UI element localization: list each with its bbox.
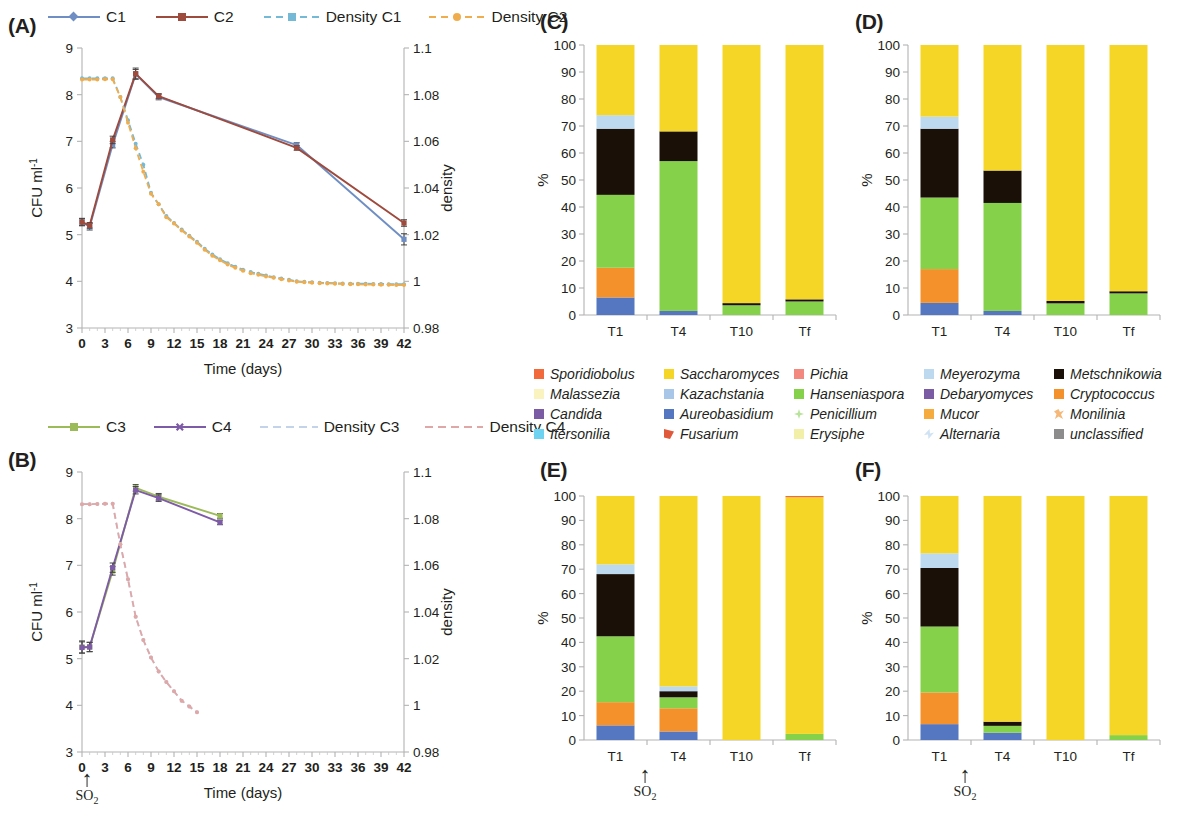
svg-text:5: 5 bbox=[65, 652, 73, 667]
svg-text:30: 30 bbox=[304, 336, 319, 351]
svg-text:6: 6 bbox=[124, 760, 132, 775]
taxon-name: Hanseniaspora bbox=[810, 386, 904, 402]
legend-item-taxon: Mucor bbox=[924, 404, 1048, 424]
taxon-color-swatch bbox=[794, 429, 804, 439]
taxon-color-swatch bbox=[794, 409, 804, 419]
legend-item-taxon: Kazachstania bbox=[664, 384, 788, 404]
taxon-name: Pichia bbox=[810, 366, 848, 382]
panel-d-chart: 0102030405060708090100T1T4T10Tf% bbox=[848, 30, 1174, 360]
svg-text:1.1: 1.1 bbox=[413, 465, 432, 480]
svg-text:T4: T4 bbox=[995, 749, 1011, 764]
svg-text:7: 7 bbox=[65, 558, 73, 573]
svg-text:1.08: 1.08 bbox=[413, 512, 439, 527]
svg-text:39: 39 bbox=[373, 336, 388, 351]
legend-key-density-c2 bbox=[429, 11, 485, 23]
svg-text:100: 100 bbox=[553, 38, 576, 53]
svg-text:Tf: Tf bbox=[1123, 749, 1135, 764]
svg-text:33: 33 bbox=[327, 760, 343, 775]
svg-text:Tf: Tf bbox=[799, 324, 811, 339]
panel-f-chart: 0102030405060708090100T1T4T10Tf% bbox=[848, 478, 1174, 788]
legend-item-taxon: Erysiphe bbox=[794, 424, 918, 444]
svg-text:24: 24 bbox=[258, 760, 274, 775]
legend-item-taxon: Meyerozyma bbox=[924, 364, 1048, 384]
svg-text:50: 50 bbox=[561, 611, 576, 626]
svg-text:30: 30 bbox=[885, 660, 900, 675]
taxon-name: Mucor bbox=[940, 406, 979, 422]
svg-text:90: 90 bbox=[885, 65, 900, 80]
legend-item-taxon: Debaryomyces bbox=[924, 384, 1048, 404]
svg-text:40: 40 bbox=[561, 200, 576, 215]
svg-text:1.06: 1.06 bbox=[413, 558, 439, 573]
svg-text:CFU ml-1: CFU ml-1 bbox=[28, 158, 45, 218]
legend-key-c4 bbox=[154, 421, 206, 433]
svg-text:30: 30 bbox=[304, 760, 319, 775]
svg-text:Tf: Tf bbox=[1123, 324, 1135, 339]
svg-text:0.98: 0.98 bbox=[413, 321, 439, 336]
legend-key-density-c4 bbox=[425, 421, 483, 433]
so2-arrow-icon: ↑ bbox=[940, 768, 990, 782]
svg-text:60: 60 bbox=[561, 587, 576, 602]
taxon-color-swatch bbox=[534, 429, 544, 439]
svg-text:100: 100 bbox=[553, 489, 576, 504]
svg-text:1: 1 bbox=[413, 274, 421, 289]
svg-text:9: 9 bbox=[147, 760, 155, 775]
legend-label-c3: C3 bbox=[106, 418, 126, 436]
svg-text:Tf: Tf bbox=[799, 749, 811, 764]
svg-text:30: 30 bbox=[561, 227, 576, 242]
so2-label: SO2 bbox=[940, 784, 990, 802]
svg-text:5: 5 bbox=[65, 228, 73, 243]
taxon-color-swatch bbox=[664, 389, 674, 399]
taxon-name: Fusarium bbox=[680, 426, 738, 442]
legend-item-taxon: unclassified bbox=[1054, 424, 1178, 444]
svg-text:90: 90 bbox=[885, 513, 900, 528]
svg-text:T10: T10 bbox=[730, 324, 753, 339]
legend-item-taxon: Itersonilia bbox=[534, 424, 658, 444]
legend-label-c1: C1 bbox=[106, 8, 126, 26]
legend-item-taxon: Pichia bbox=[794, 364, 918, 384]
svg-text:9: 9 bbox=[65, 465, 73, 480]
svg-text:1.06: 1.06 bbox=[413, 134, 439, 149]
svg-text:%: % bbox=[534, 173, 551, 186]
svg-text:42: 42 bbox=[396, 760, 411, 775]
panel-a-legend: C1 C2 Density C1 Density C2 bbox=[48, 8, 567, 26]
legend-item-taxon: Sporidiobolus bbox=[534, 364, 658, 384]
svg-text:70: 70 bbox=[885, 562, 900, 577]
svg-text:%: % bbox=[858, 173, 875, 186]
so2-label: SO2 bbox=[620, 784, 670, 802]
svg-text:T10: T10 bbox=[1054, 749, 1077, 764]
svg-text:3: 3 bbox=[65, 745, 73, 760]
svg-text:9: 9 bbox=[147, 336, 155, 351]
svg-text:T4: T4 bbox=[995, 324, 1011, 339]
legend-label-c4: C4 bbox=[212, 418, 232, 436]
svg-text:Time (days): Time (days) bbox=[204, 360, 283, 377]
svg-text:20: 20 bbox=[561, 684, 576, 699]
svg-text:100: 100 bbox=[877, 489, 900, 504]
svg-text:70: 70 bbox=[561, 119, 576, 134]
svg-text:T1: T1 bbox=[608, 749, 624, 764]
svg-text:8: 8 bbox=[65, 512, 73, 527]
legend-key-c1 bbox=[48, 11, 100, 23]
legend-item-c2: C2 bbox=[156, 8, 234, 26]
legend-item-taxon: Aureobasidium bbox=[664, 404, 788, 424]
svg-text:33: 33 bbox=[327, 336, 343, 351]
svg-text:10: 10 bbox=[561, 709, 576, 724]
taxon-color-swatch bbox=[794, 369, 804, 379]
taxon-color-swatch bbox=[664, 409, 674, 419]
svg-text:1.1: 1.1 bbox=[413, 41, 432, 56]
so2-arrow-icon: ↑ bbox=[620, 768, 670, 782]
taxon-color-swatch bbox=[664, 429, 674, 439]
taxon-name: unclassified bbox=[1070, 426, 1143, 442]
legend-item-taxon: Cryptococcus bbox=[1054, 384, 1178, 404]
svg-text:T1: T1 bbox=[932, 324, 948, 339]
svg-text:1.02: 1.02 bbox=[413, 652, 439, 667]
taxon-color-swatch bbox=[534, 369, 544, 379]
svg-text:20: 20 bbox=[885, 254, 900, 269]
taxon-color-swatch bbox=[664, 369, 674, 379]
svg-text:0: 0 bbox=[78, 336, 86, 351]
svg-text:T4: T4 bbox=[671, 749, 687, 764]
svg-text:80: 80 bbox=[885, 92, 900, 107]
so2-label: SO2 bbox=[62, 788, 112, 806]
svg-text:36: 36 bbox=[350, 760, 366, 775]
panel-e-so2-annotation: ↑ SO2 bbox=[620, 768, 670, 802]
svg-text:12: 12 bbox=[166, 336, 181, 351]
